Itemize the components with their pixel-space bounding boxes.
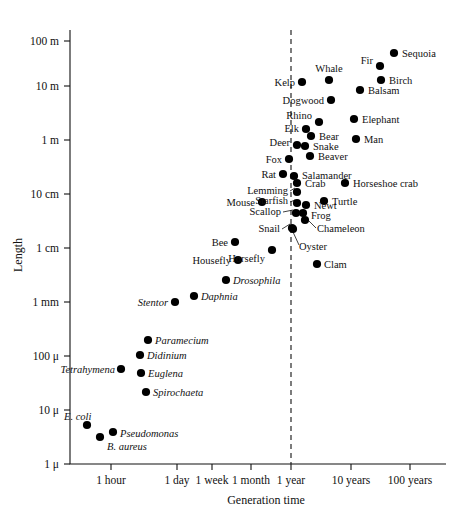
data-points [83,49,398,441]
data-point [298,78,306,86]
point-label: Birch [389,75,413,86]
data-point [290,172,298,180]
point-label: Spirochaeta [153,387,203,398]
point-label: Euglena [147,368,183,379]
point-label: Bee [212,237,229,248]
data-point [117,365,125,373]
data-point [299,209,307,217]
data-point [137,369,145,377]
data-point [144,336,152,344]
data-point [293,179,301,187]
data-point [313,260,321,268]
data-point [307,132,315,140]
y-tick-label: 10 cm [31,188,59,200]
y-tick-label: 1 cm [36,242,59,254]
data-point [315,118,323,126]
point-label: Stentor [138,297,169,308]
data-point [83,421,91,429]
point-label: Beaver [318,151,348,162]
point-label: Rat [261,169,276,180]
data-point [268,246,276,254]
data-point [356,86,364,94]
point-label: Whale [315,63,343,74]
data-point [301,142,309,150]
y-tick-label: 10 m [36,80,59,92]
point-label: Bear [319,131,339,142]
point-label: Snake [313,141,339,152]
point-label: Lemming [247,185,289,196]
x-axis-title: Generation time [227,493,305,507]
data-point [142,388,150,396]
point-label: Oyster [299,241,327,252]
x-tick-label: 1 week [196,474,229,486]
y-tick-label: 1 μ [44,458,59,471]
point-label: Deer [270,137,291,148]
data-point [377,76,385,84]
point-label: Dogwood [283,95,325,106]
point-label: Drosophila [232,275,280,286]
data-point [293,188,301,196]
x-axis-ticks: 1 hour1 day1 week1 month1 year10 years10… [96,464,433,487]
point-label: Elk [284,123,299,134]
data-point [301,216,309,224]
data-point [325,76,333,84]
x-tick-label: 1 month [232,474,270,486]
data-point [306,152,314,160]
point-label: Horseshoe crab [353,178,418,189]
data-point [302,125,310,133]
data-point [222,276,230,284]
point-label: Housefly [193,255,232,266]
data-point-labels: E. coliB. aureusPseudomonasTetrahymenaSp… [61,48,437,452]
y-tick-label: 100 μ [33,350,59,363]
point-label: Fir [361,55,374,66]
point-label: Horsefly [228,253,265,264]
point-label: Pseudomonas [119,428,178,439]
data-point [350,115,358,123]
figure-container: 1 μ10 μ100 μ1 mm1 cm10 cm1 m10 m100 m 1 … [0,0,455,511]
data-point [352,135,360,143]
y-axis-title: Length [11,238,25,272]
y-tick-label: 1 m [41,134,59,146]
data-point [231,238,239,246]
data-point [279,170,287,178]
point-label: Fox [266,154,283,165]
data-point [109,428,117,436]
data-point [190,292,198,300]
data-point [285,155,293,163]
point-label: Snail [258,223,280,234]
point-label: Daphnia [200,291,238,302]
x-tick-label: 100 years [388,474,433,487]
data-point [293,199,301,207]
data-point [171,298,179,306]
data-point [390,49,398,57]
x-tick-label: 1 day [164,474,189,487]
point-label: Chameleon [317,223,366,234]
y-axis-ticks: 1 μ10 μ100 μ1 mm1 cm10 cm1 m10 m100 m [30,35,70,471]
y-tick-label: 1 mm [32,296,59,308]
data-point [292,209,300,217]
y-tick-label: 100 m [30,35,59,47]
data-point [376,62,384,70]
data-point [96,433,104,441]
point-label: Man [364,134,384,145]
point-label: Starfish [255,195,288,206]
scatter-plot: 1 μ10 μ100 μ1 mm1 cm10 cm1 m10 m100 m 1 … [0,0,455,511]
point-label: Frog [311,210,332,221]
data-point [289,225,297,233]
point-label: B. aureus [107,441,147,452]
point-label: Balsam [368,85,400,96]
point-label: Rhino [286,110,312,121]
x-tick-label: 1 year [277,474,306,487]
x-tick-label: 1 hour [96,474,126,486]
data-point [327,96,335,104]
x-tick-label: 10 years [332,474,371,487]
point-label: Turtle [332,196,358,207]
point-label: Salamander [302,170,352,181]
data-point [293,141,301,149]
point-label: Sequoia [402,48,436,59]
point-label: E. coli [63,411,91,422]
point-label: Mouse [226,197,255,208]
point-label: Didinium [146,350,187,361]
point-label: Tetrahymena [61,364,115,375]
point-label: Clam [324,259,347,270]
